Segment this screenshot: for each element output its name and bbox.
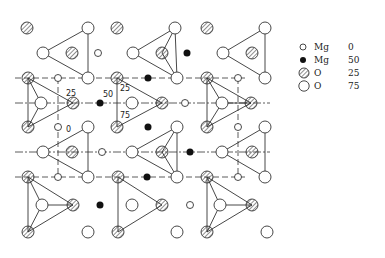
height-label: 0 bbox=[66, 125, 71, 134]
legend-value: 50 bbox=[348, 55, 359, 65]
height-label: 25 bbox=[120, 84, 130, 93]
legend: Mg 0 Mg 50 O 25 O 75 bbox=[298, 40, 312, 92]
legend-label: O bbox=[314, 68, 321, 78]
large-open-circle-icon bbox=[298, 80, 312, 92]
crystal-structure-diagram: 25 50 25 75 0 bbox=[0, 0, 385, 258]
legend-label: Mg bbox=[314, 42, 329, 52]
height-label: 75 bbox=[120, 111, 130, 120]
legend-item: O 25 bbox=[298, 66, 312, 79]
legend-item: O 75 bbox=[298, 79, 312, 92]
legend-label: O bbox=[314, 81, 321, 91]
legend-value: 0 bbox=[348, 42, 354, 52]
legend-value: 75 bbox=[348, 81, 359, 91]
legend-value: 25 bbox=[348, 68, 359, 78]
hatched-circle-icon bbox=[298, 67, 312, 79]
legend-label: Mg bbox=[314, 55, 329, 65]
legend-item: Mg 50 bbox=[298, 53, 312, 66]
height-label: 50 bbox=[103, 90, 113, 99]
height-label: 25 bbox=[66, 89, 76, 98]
filled-circle-icon bbox=[298, 54, 312, 66]
small-open-circle-icon bbox=[298, 41, 312, 53]
mirror-dash-dot-lines bbox=[15, 103, 270, 152]
legend-item: Mg 0 bbox=[298, 40, 312, 53]
